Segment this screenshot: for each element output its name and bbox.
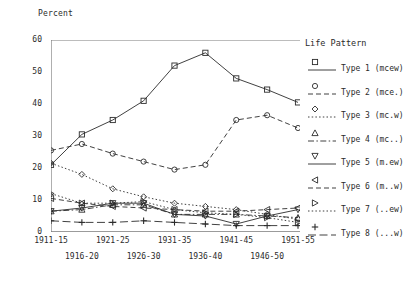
x-tick-label: 1921-25 <box>87 236 139 245</box>
legend-item-5[interactable]: Type 5 (m.ew) <box>305 150 417 172</box>
x-tick-label: 1926-30 <box>118 252 170 261</box>
y-tick-label: 0 <box>22 227 42 236</box>
legend-item-label: Type 8 (...w) <box>341 229 404 238</box>
legend-item-label: Type 6 (m..w) <box>341 182 404 191</box>
legend-item-8[interactable]: Type 8 (...w) <box>305 221 417 243</box>
legend-item-3[interactable]: Type 3 (mc.w) <box>305 103 417 125</box>
legend-item-2[interactable]: Type 2 (mce.) <box>305 80 417 102</box>
x-tick-label: 1911-15 <box>25 236 77 245</box>
y-tick-label: 60 <box>22 35 42 44</box>
legend-item-6[interactable]: Type 6 (m..w) <box>305 174 417 196</box>
legend-item-label: Type 3 (mc.w) <box>341 111 404 120</box>
y-tick-label: 10 <box>22 195 42 204</box>
x-tick-label: 1946-50 <box>241 252 293 261</box>
legend-sample-triangle-left-icon <box>307 174 337 192</box>
legend-sample-plus-icon <box>307 221 337 239</box>
x-tick-label: 1941-45 <box>210 236 262 245</box>
legend-item-1[interactable]: Type 1 (mcew) <box>305 56 417 78</box>
legend-sample-triangle-up-icon <box>307 127 337 145</box>
plot-area <box>51 40 300 232</box>
series-1 <box>51 50 300 167</box>
legend-sample-triangle-right-icon <box>307 197 337 215</box>
x-tick-label: 1931-35 <box>149 236 201 245</box>
legend-title: Life Pattern <box>305 38 366 48</box>
y-tick-label: 50 <box>22 67 42 76</box>
series-2 <box>51 113 300 173</box>
legend-item-label: Type 5 (m.ew) <box>341 158 404 167</box>
legend-item-label: Type 2 (mce.) <box>341 88 404 97</box>
legend-sample-square-icon <box>307 56 337 74</box>
legend: Life Pattern Type 1 (mcew)Type 2 (mce.)T… <box>305 40 417 240</box>
legend-item-7[interactable]: Type 7 (..ew) <box>305 197 417 219</box>
y-axis-title: Percent <box>38 9 73 18</box>
legend-sample-circle-icon <box>307 80 337 98</box>
legend-sample-triangle-down-icon <box>307 150 337 168</box>
series-8 <box>51 218 300 229</box>
x-tick-label: 1916-20 <box>56 252 108 261</box>
chart-figure: Percent 0102030405060 1911-151916-201921… <box>0 0 418 289</box>
y-tick-label: 20 <box>22 163 42 172</box>
legend-sample-diamond-icon <box>307 103 337 121</box>
series-7 <box>51 191 300 226</box>
y-tick-label: 40 <box>22 99 42 108</box>
x-tick-label: 1936-40 <box>179 252 231 261</box>
legend-item-label: Type 4 (mc..) <box>341 135 404 144</box>
legend-item-label: Type 7 (..ew) <box>341 205 404 214</box>
legend-item-4[interactable]: Type 4 (mc..) <box>305 127 417 149</box>
data-series-layer <box>51 40 300 232</box>
y-tick-label: 30 <box>22 131 42 140</box>
legend-item-label: Type 1 (mcew) <box>341 64 404 73</box>
